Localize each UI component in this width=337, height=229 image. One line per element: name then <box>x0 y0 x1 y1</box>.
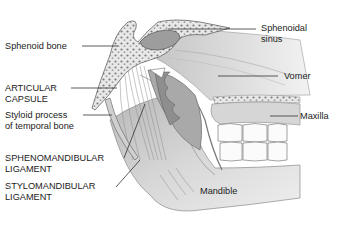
teeth <box>218 124 287 162</box>
maxilla-body <box>211 102 300 125</box>
label-articular-capsule: ARTICULAR CAPSULE <box>5 83 57 104</box>
label-sphenoid-bone: Sphenoid bone <box>5 41 67 52</box>
label-sphenoidal-sinus: Sphenoidal sinus <box>261 23 307 44</box>
label-styloid-process: Styloid process of temporal bone <box>5 110 74 131</box>
label-stylomandibular-ligament: STYLOMANDIBULAR LIGAMENT <box>5 181 95 202</box>
label-sphenomandibular-ligament: SPHENOMANDIBULAR LIGAMENT <box>5 153 104 174</box>
label-vomer: Vomer <box>284 71 311 82</box>
label-maxilla: Maxilla <box>300 111 329 122</box>
label-mandible: Mandible <box>200 186 237 197</box>
anatomy-figure: Sphenoid bone ARTICULAR CAPSULE Styloid … <box>0 0 337 229</box>
